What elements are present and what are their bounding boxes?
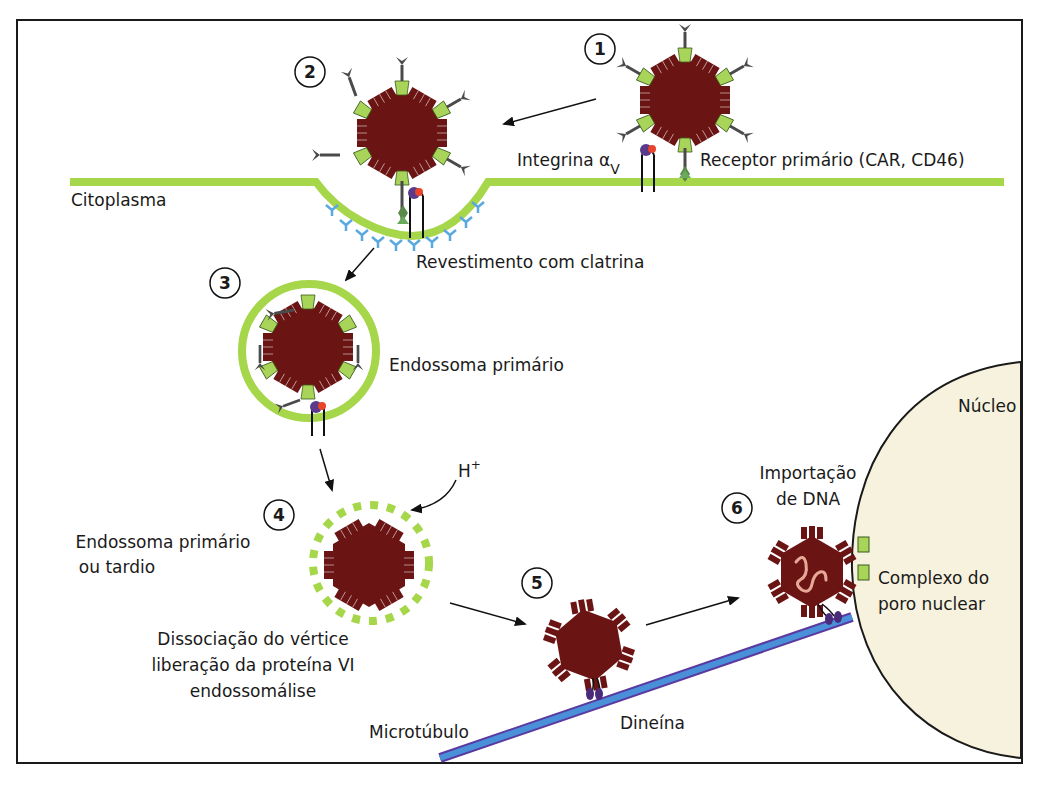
dynein-label: Dineína [620,713,685,733]
microtubule [440,617,852,758]
endosome-late-label-2: ou tardio [79,557,155,577]
free-fiber [312,149,340,161]
free-fiber [341,68,362,98]
primary-receptor-label: Receptor primário (CAR, CD46) [700,150,965,170]
endosome-late-label-1: Endossoma primário [76,532,251,552]
svg-text:1: 1 [594,39,606,59]
dissociation-label-1: Dissociação do vértice [157,629,348,649]
microtubule-label: Microtúbulo [369,722,469,742]
arrow-1-to-2 [504,99,596,124]
cytoplasm-label: Citoplasma [71,190,166,210]
svg-text:2: 2 [304,62,316,82]
virion-step-5 [536,592,641,698]
dissociation-label-2: liberação da proteína VI [151,655,354,675]
dna-import-label-1: Importação [759,463,856,483]
early-endosome-label: Endossoma primário [389,355,564,375]
npc-label-2: poro nuclear [878,594,985,614]
svg-text:5: 5 [531,573,543,593]
plasma-membrane [70,182,1004,236]
arrow-4-to-5 [450,603,525,624]
step-5-badge: 5 [522,568,552,598]
npc-label-1: Complexo do [878,568,989,588]
dissociation-label-3: endossomálise [190,681,316,701]
step-3-badge: 3 [210,268,240,298]
receptor-step-2 [397,205,409,224]
arrow-2-to-3 [346,248,374,280]
step-4-badge: 4 [264,500,294,530]
integrin-label: Integrina αV [517,150,620,177]
virion-step-4 [324,519,414,611]
step-1-badge: 1 [585,34,615,64]
nucleus-label: Núcleo [958,396,1016,416]
svg-text:6: 6 [731,498,743,518]
integrin-step-2 [408,187,423,238]
arrow-3-to-4 [320,449,332,490]
virion-step-6 [767,526,858,618]
nucleus [852,362,1021,758]
proton-arrow [412,480,456,510]
step-2-badge: 2 [295,57,325,87]
svg-text:4: 4 [273,505,285,525]
step-6-badge: 6 [722,493,752,523]
svg-text:3: 3 [219,273,231,293]
arrow-5-to-6 [646,598,738,625]
dna-import-label-2: de DNA [776,489,840,509]
proton-label: H+ [458,458,481,481]
clathrin-label: Revestimento com clatrina [416,252,644,272]
adenovirus-entry-diagram: Núcleo Citoplasma Integrina αV [0,0,1054,794]
